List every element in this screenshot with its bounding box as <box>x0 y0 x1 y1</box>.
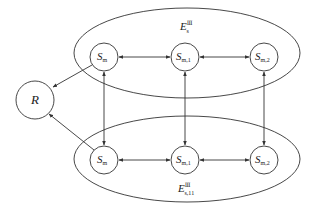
node-bottom-2-label: Sm,2 <box>255 153 270 166</box>
group-label-bottom: EⅢs,11 <box>177 182 194 196</box>
diagram-canvas: EⅢs EⅢs,11 R Sm Sm,1 Sm,2 Sm Sm,1 Sm,2 <box>0 0 316 209</box>
node-top-1-label: Sm,1 <box>176 50 191 63</box>
edge-top0-to-r <box>53 65 92 87</box>
node-bottom-0-label: Sm <box>97 153 108 166</box>
node-r-label: R <box>30 92 39 107</box>
node-top-2-label: Sm,2 <box>255 50 270 63</box>
state-diagram: EⅢs EⅢs,11 R Sm Sm,1 Sm,2 Sm Sm,1 Sm,2 <box>0 0 316 209</box>
edge-bottom0-to-r <box>49 114 94 150</box>
group-label-top: EⅢs <box>179 20 193 34</box>
node-top-0-label: Sm <box>97 50 108 63</box>
node-bottom-1-label: Sm,1 <box>176 153 191 166</box>
